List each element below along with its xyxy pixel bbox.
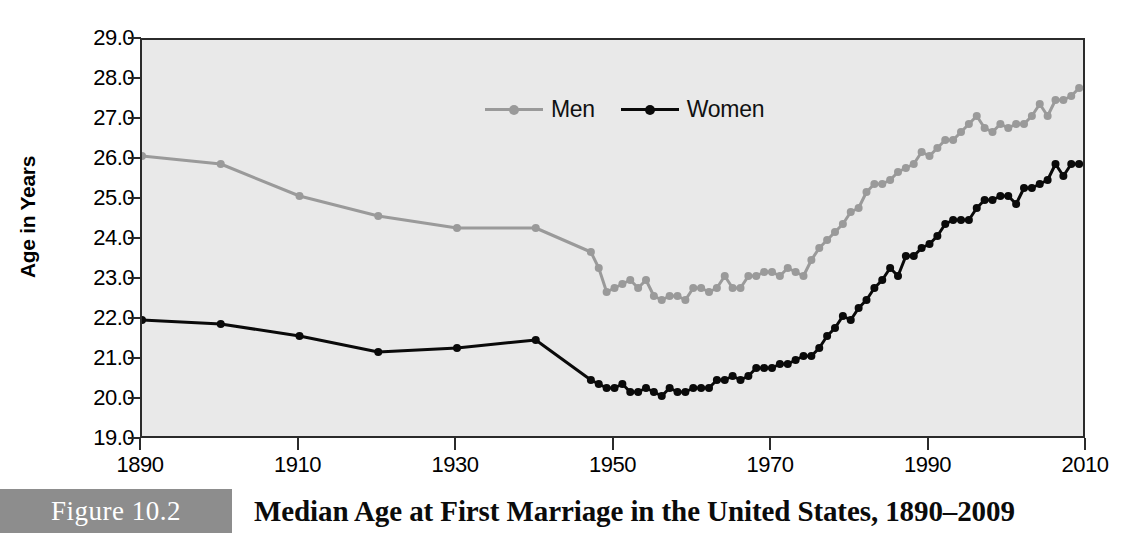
data-point	[965, 120, 973, 128]
data-point	[744, 372, 752, 380]
data-point	[729, 284, 737, 292]
data-point	[603, 288, 611, 296]
data-point	[902, 252, 910, 260]
y-tick-label: 19.0	[50, 425, 134, 451]
x-tick-label: 2010	[1025, 452, 1145, 478]
data-point	[1067, 92, 1075, 100]
data-point	[989, 196, 997, 204]
data-point	[1012, 120, 1020, 128]
x-tick-mark	[769, 438, 771, 450]
series-women	[142, 160, 1083, 400]
data-point	[941, 220, 949, 228]
data-point	[587, 248, 595, 256]
x-tick-label: 1890	[80, 452, 200, 478]
y-tick-label: 21.0	[50, 345, 134, 371]
data-point	[1044, 112, 1052, 120]
y-tick-label: 20.0	[50, 385, 134, 411]
data-point	[217, 160, 225, 168]
data-point	[587, 376, 595, 384]
data-point	[847, 316, 855, 324]
data-point	[933, 232, 941, 240]
y-tick-label: 27.0	[50, 105, 134, 131]
data-point	[666, 384, 674, 392]
data-point	[666, 292, 674, 300]
data-point	[1052, 160, 1060, 168]
data-point	[847, 208, 855, 216]
data-point	[634, 388, 642, 396]
data-point	[878, 180, 886, 188]
data-point	[697, 284, 705, 292]
legend-label-women: Women	[687, 96, 764, 123]
data-point	[603, 384, 611, 392]
data-point	[1036, 180, 1044, 188]
y-tick-label: 28.0	[50, 65, 134, 91]
data-point	[729, 372, 737, 380]
data-point	[650, 388, 658, 396]
data-point	[705, 288, 713, 296]
y-tick-label: 29.0	[50, 25, 134, 51]
data-point	[918, 148, 926, 156]
data-point	[989, 128, 997, 136]
chart-block: Age in Years 29.028.027.026.025.024.023.…	[0, 0, 1148, 480]
data-point	[611, 384, 619, 392]
data-point	[823, 332, 831, 340]
data-point	[674, 388, 682, 396]
y-tick-label: 26.0	[50, 145, 134, 171]
data-point	[902, 164, 910, 172]
x-tick-label: 1990	[868, 452, 988, 478]
data-point	[1020, 184, 1028, 192]
data-point	[768, 364, 776, 372]
data-point	[681, 388, 689, 396]
data-point	[807, 256, 815, 264]
data-point	[752, 272, 760, 280]
data-point	[697, 384, 705, 392]
data-point	[784, 360, 792, 368]
data-point	[839, 312, 847, 320]
data-point	[831, 324, 839, 332]
data-point	[721, 376, 729, 384]
legend-entry-women: Women	[621, 96, 764, 123]
data-point	[1059, 96, 1067, 104]
data-point	[863, 188, 871, 196]
data-point	[760, 268, 768, 276]
data-point	[981, 196, 989, 204]
data-point	[217, 320, 225, 328]
data-point	[894, 272, 902, 280]
y-tick-label: 24.0	[50, 225, 134, 251]
data-point	[142, 316, 146, 324]
data-point	[1036, 100, 1044, 108]
data-point	[618, 280, 626, 288]
data-point	[713, 284, 721, 292]
data-point	[807, 352, 815, 360]
y-tick-label: 23.0	[50, 265, 134, 291]
data-point	[973, 204, 981, 212]
data-point	[800, 352, 808, 360]
figure-number-badge: Figure 10.2	[0, 489, 232, 533]
data-point	[933, 144, 941, 152]
data-point	[1059, 172, 1067, 180]
series-line	[142, 164, 1079, 396]
data-point	[658, 392, 666, 400]
x-tick-mark	[454, 438, 456, 450]
x-tick-mark	[139, 438, 141, 450]
data-point	[886, 264, 894, 272]
data-point	[1004, 192, 1012, 200]
data-point	[674, 292, 682, 300]
data-point	[996, 120, 1004, 128]
data-point	[689, 284, 697, 292]
data-point	[855, 204, 863, 212]
data-point	[1075, 160, 1083, 168]
legend-swatch-women-icon	[621, 102, 679, 116]
data-point	[941, 136, 949, 144]
x-tick-label: 1910	[238, 452, 358, 478]
data-point	[142, 152, 146, 160]
x-tick-label: 1950	[553, 452, 673, 478]
data-point	[642, 384, 650, 392]
data-point	[981, 124, 989, 132]
data-point	[886, 176, 894, 184]
data-point	[752, 364, 760, 372]
legend-entry-men: Men	[485, 96, 595, 123]
data-point	[296, 192, 304, 200]
data-point	[595, 380, 603, 388]
data-point	[626, 276, 634, 284]
